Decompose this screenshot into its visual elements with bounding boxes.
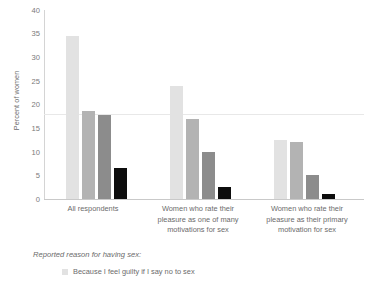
legend-swatch-icon	[62, 269, 68, 275]
plot-area	[44, 10, 364, 200]
x-category-label-2-line1: Women who rate their	[139, 204, 257, 215]
x-category-label-2-line2: pleasure as one of many	[139, 215, 257, 226]
x-category-label-2-line3: motivations for sex	[139, 225, 257, 236]
y-tick-10: 10	[14, 149, 40, 157]
y-tick-40: 40	[14, 7, 40, 15]
y-tick-20: 20	[14, 101, 40, 109]
bar-g2-s4	[218, 187, 231, 199]
x-category-label-3: Women who rate their pleasure as their p…	[248, 204, 366, 236]
bar-g1-s2	[82, 111, 95, 199]
y-tick-0: 0	[14, 196, 40, 204]
x-category-label-3-line2: pleasure as their primary	[248, 215, 366, 226]
bar-chart: Percent of women 40 35 30 25 20 15 10 5 …	[0, 0, 370, 282]
y-axis-line	[44, 10, 45, 200]
bar-g1-s1	[66, 36, 79, 199]
y-tick-30: 30	[14, 54, 40, 62]
bar-g2-s1	[170, 86, 183, 199]
y-tick-15: 15	[14, 125, 40, 133]
x-category-label-3-line1: Women who rate their	[248, 204, 366, 215]
x-category-label-2: Women who rate their pleasure as one of …	[139, 204, 257, 236]
x-category-label-3-line3: motivation for sex	[248, 225, 366, 236]
legend-title: Reported reason for having sex:	[33, 250, 141, 259]
bar-g2-s3	[202, 152, 215, 199]
y-tick-5: 5	[14, 172, 40, 180]
bar-g2-s2	[186, 119, 199, 199]
y-tick-35: 35	[14, 30, 40, 38]
bar-g1-s4	[114, 168, 127, 199]
y-tick-25: 25	[14, 78, 40, 86]
legend-item-1[interactable]: Because I feel guilty if I say no to sex	[62, 266, 362, 277]
bar-g3-s4	[322, 194, 335, 199]
x-category-label-1-line1: All respondents	[38, 204, 148, 215]
x-category-label-1: All respondents	[38, 204, 148, 215]
bar-g3-s1	[274, 140, 287, 199]
bar-g3-s3	[306, 175, 319, 199]
legend: Because I feel guilty if I say no to sex	[62, 266, 362, 277]
bar-g3-s2	[290, 142, 303, 199]
legend-item-1-label: Because I feel guilty if I say no to sex	[73, 267, 195, 276]
bar-g1-s3	[98, 115, 111, 199]
x-axis-line	[44, 199, 364, 200]
